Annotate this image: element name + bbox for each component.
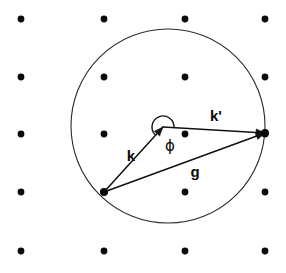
lattice-dot-9 <box>101 131 108 138</box>
lattice-dot-2 <box>182 16 189 23</box>
ewald-construction-diagram: k k' g ϕ <box>0 0 286 273</box>
lattice-dot-15 <box>262 189 269 196</box>
lattice-dot-4 <box>18 74 25 81</box>
label-k-prime: k' <box>210 107 222 124</box>
lattice-origin-000 <box>100 188 108 196</box>
lattice-dot-16 <box>18 248 25 255</box>
lattice-dot-19 <box>262 248 269 255</box>
lattice-dot-0 <box>18 16 25 23</box>
lattice-dot-1 <box>101 16 108 23</box>
label-k: k <box>127 147 136 164</box>
label-g: g <box>190 163 199 180</box>
figure-canvas: k k' g ϕ <box>0 0 286 273</box>
lattice-dot-7 <box>262 74 269 81</box>
lattice-dot-6 <box>182 74 189 81</box>
lattice-point-hkl <box>261 129 269 137</box>
lattice-dot-5 <box>101 74 108 81</box>
label-phi: ϕ <box>165 137 175 155</box>
lattice-dot-18 <box>182 248 189 255</box>
lattice-dot-3 <box>262 16 269 23</box>
vector-line-k-prime <box>163 127 265 133</box>
ewald-circle <box>71 29 265 223</box>
lattice-dot-10 <box>182 131 189 138</box>
lattice-dot-14 <box>182 189 189 196</box>
lattice-dot-17 <box>101 248 108 255</box>
lattice-dot-12 <box>18 189 25 196</box>
lattice-dot-8 <box>18 131 25 138</box>
